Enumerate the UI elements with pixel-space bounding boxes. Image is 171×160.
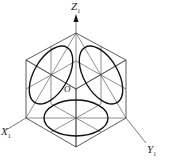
z-axis-label: Z1 xyxy=(71,1,80,14)
diagram-canvas xyxy=(0,0,171,160)
y-axis xyxy=(126,118,146,143)
origin-label: O xyxy=(64,85,71,94)
construction-lines xyxy=(26,33,126,147)
x-axis-label: X1 xyxy=(1,126,11,139)
z-axis-arrow-icon xyxy=(74,14,79,22)
y-axis-label: Y1 xyxy=(147,144,156,157)
isometric-cube-diagram: Z1 X1 Y1 O xyxy=(0,0,171,160)
